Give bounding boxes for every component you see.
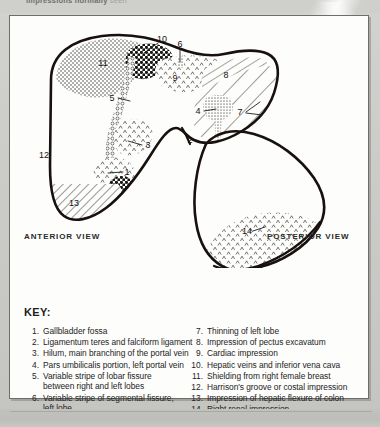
key-item: 11.Shielding from right female breast bbox=[188, 371, 366, 382]
callout-6: 6 bbox=[177, 39, 182, 49]
key-item: 5.Variable stripe of lobar fissurebetwee… bbox=[24, 371, 200, 392]
key-item-label: Impression of pectus excavatum bbox=[207, 337, 366, 348]
key-item-number: 10. bbox=[188, 360, 207, 371]
key-item-label: Hilum, main branching of the portal vein bbox=[43, 348, 200, 359]
key-item-label: Cardiac impression bbox=[207, 348, 366, 359]
key-item: 1.Gallbladder fossa bbox=[24, 326, 200, 337]
key-item-label: Impression of hepatic flexure of colon bbox=[207, 393, 366, 404]
key-item-number: 6. bbox=[24, 393, 43, 404]
key-item: 3.Hilum, main branching of the portal ve… bbox=[24, 348, 200, 359]
key-item: 12.Harrison's groove or costal impressio… bbox=[188, 382, 366, 393]
top-fragment-bold: impressions normally bbox=[26, 0, 108, 5]
top-fragment-faint: seen bbox=[110, 0, 127, 5]
page-top-text-fragment: impressions normally seen bbox=[0, 0, 380, 13]
callout-7: 7 bbox=[237, 107, 242, 117]
key-column-left: 1.Gallbladder fossa2.Ligamentum teres an… bbox=[24, 326, 200, 414]
figure-panel: 1 2 3 4 5 6 7 8 9 10 11 12 13 14 ANTERIO… bbox=[9, 15, 369, 399]
key-item: 8.Impression of pectus excavatum bbox=[188, 337, 366, 348]
anterior-view-label: ANTERIOR VIEW bbox=[24, 232, 100, 241]
key-item: 2.Ligamentum teres and falciform ligamen… bbox=[24, 337, 200, 348]
key-title: KEY: bbox=[24, 306, 51, 318]
scanned-page-background: impressions normally seen bbox=[0, 0, 380, 427]
key-item-number: 8. bbox=[188, 337, 207, 348]
callout-9: 9 bbox=[172, 73, 177, 83]
callout-1: 1 bbox=[124, 167, 129, 177]
callout-2: 2 bbox=[187, 135, 192, 145]
liver-diagram-svg: 1 2 3 4 5 6 7 8 9 10 11 12 13 14 bbox=[10, 16, 368, 268]
key-item: 13.Impression of hepatic flexure of colo… bbox=[188, 393, 366, 404]
callout-5: 5 bbox=[109, 93, 114, 103]
key-item-label: Gallbladder fossa bbox=[43, 326, 200, 337]
callout-13: 13 bbox=[69, 198, 79, 208]
key-item: 4.Pars umbilicalis portion, left portal … bbox=[24, 360, 200, 371]
key-item-number: 9. bbox=[188, 348, 207, 359]
key-item-label-continued: between right and left lobes bbox=[43, 381, 200, 392]
key-item-number: 13. bbox=[188, 393, 207, 404]
key-item-label: Shielding from right female breast bbox=[207, 371, 366, 382]
callout-11: 11 bbox=[98, 58, 107, 68]
key-item-label: Ligamentum teres and falciform ligament bbox=[43, 337, 200, 348]
key-item-number: 3. bbox=[24, 348, 43, 359]
key-legend: KEY: 1.Gallbladder fossa2.Ligamentum ter… bbox=[10, 268, 368, 398]
key-item-label: Hepatic veins and inferior vena cava bbox=[207, 360, 366, 371]
region-6-segmental-fissure-stripe bbox=[177, 58, 184, 68]
key-item: 7.Thinning of left lobe bbox=[188, 326, 366, 337]
key-item-number: 12. bbox=[188, 382, 207, 393]
key-item-number: 1. bbox=[24, 326, 43, 337]
key-column-right: 7.Thinning of left lobe8.Impression of p… bbox=[188, 326, 366, 416]
key-item: 10.Hepatic veins and inferior vena cava bbox=[188, 360, 366, 371]
callout-14: 14 bbox=[242, 226, 252, 236]
key-item-number: 4. bbox=[24, 360, 43, 371]
key-item-label-line1: Variable stripe of segmental fissure, bbox=[43, 393, 174, 403]
key-item-number: 5. bbox=[24, 371, 43, 382]
callout-12: 12 bbox=[39, 150, 49, 160]
page-bottom-edge bbox=[0, 409, 380, 427]
key-item-number: 2. bbox=[24, 337, 43, 348]
callout-4: 4 bbox=[195, 106, 200, 116]
posterior-view-label: POSTERIOR VIEW bbox=[267, 232, 349, 241]
key-item-label: Thinning of left lobe bbox=[207, 326, 366, 337]
key-item-number: 7. bbox=[188, 326, 207, 337]
key-item-number: 11. bbox=[188, 371, 207, 382]
key-item-label-line1: Variable stripe of lobar fissure bbox=[43, 371, 152, 381]
key-item-label: Pars umbilicalis portion, left portal ve… bbox=[43, 360, 200, 371]
liver-diagram: 1 2 3 4 5 6 7 8 9 10 11 12 13 14 ANTERIO… bbox=[10, 16, 368, 268]
key-item: 9.Cardiac impression bbox=[188, 348, 366, 359]
key-item-label: Harrison's groove or costal impression bbox=[207, 382, 366, 393]
callout-10: 10 bbox=[157, 34, 167, 44]
key-item-label: Variable stripe of lobar fissurebetween … bbox=[43, 371, 200, 392]
callout-3: 3 bbox=[145, 140, 150, 150]
callout-8: 8 bbox=[223, 70, 228, 80]
